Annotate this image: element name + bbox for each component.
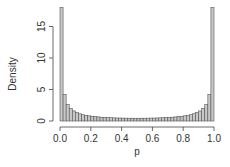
histogram-bar [183,116,186,121]
histogram-bars [60,8,214,121]
y-tick-label: 5 [36,86,47,92]
histogram-bar [152,118,155,121]
histogram-bar [186,115,189,121]
histogram-bar [155,118,158,121]
histogram-bar [115,118,118,121]
histogram-bar [128,118,131,121]
histogram-bar [180,116,183,121]
x-tick-label: 0.4 [115,133,129,144]
histogram-bar [119,118,122,121]
x-tick-label: 1.0 [207,133,221,144]
histogram-bar [162,118,165,121]
histogram-bar [171,117,174,121]
histogram-bar [112,118,115,121]
histogram-bar [159,118,162,121]
histogram-bar [165,118,168,121]
histogram-bar [60,8,63,121]
histogram-bar [146,118,149,121]
histogram-bar [88,116,91,121]
histogram-bar [125,118,128,121]
x-axis-title: p [134,146,140,157]
histogram-bar [208,95,211,121]
x-tick-label: 0.8 [176,133,190,144]
histogram-bar [100,117,103,121]
x-tick-label: 0.6 [145,133,159,144]
histogram-bar [168,117,171,121]
histogram-bar [143,118,146,121]
histogram-bar [131,118,134,121]
histogram-bar [134,118,137,121]
histogram-bar [199,111,202,121]
histogram-bar [72,111,75,121]
histogram-bar [97,117,100,121]
histogram-bar [63,95,66,121]
x-tick-label: 0.2 [84,133,98,144]
x-axis: 0.00.20.40.60.81.0 [53,127,221,144]
y-tick-label: 15 [36,21,47,33]
histogram-bar [106,118,109,121]
density-histogram: 051015 0.00.20.40.60.81.0 Density p [0,0,230,167]
histogram-bar [174,117,177,121]
histogram-bar [66,105,69,121]
y-tick-label: 10 [36,52,47,64]
histogram-bar [192,114,195,121]
histogram-bar [82,115,85,121]
histogram-bar [109,118,112,121]
histogram-bar [94,117,97,121]
y-tick-label: 0 [36,118,47,124]
histogram-bar [137,118,140,121]
histogram-bar [122,118,125,121]
x-tick-label: 0.0 [53,133,67,144]
histogram-bar [211,8,214,121]
y-axis-title: Density [7,57,18,90]
histogram-bar [196,112,199,121]
histogram-bar [103,117,106,121]
histogram-bar [85,115,88,121]
histogram-bar [149,118,152,121]
histogram-bar [177,117,180,121]
histogram-bar [205,105,208,121]
histogram-bar [78,114,81,121]
y-axis: 051015 [36,21,53,124]
histogram-bar [91,116,94,121]
histogram-bar [75,112,78,121]
histogram-bar [189,115,192,121]
histogram-bar [202,108,205,121]
histogram-bar [140,118,143,121]
histogram-bar [69,108,72,121]
